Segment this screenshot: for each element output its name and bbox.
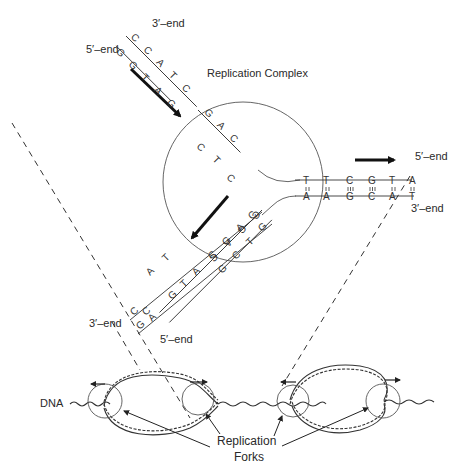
- svg-text:C: C: [368, 191, 375, 202]
- replication-fork-circle: [366, 384, 400, 418]
- replication-forks-label-2: Forks: [234, 450, 264, 464]
- projection-line-right: [282, 176, 410, 386]
- svg-text:T: T: [389, 175, 395, 186]
- dna-replication-diagram: Replication Complex 3′–end 5′–end 5′–end…: [0, 0, 464, 471]
- svg-text:T: T: [139, 71, 151, 83]
- upper-left-duplex: C C A T C G G T A G: [111, 28, 204, 121]
- bottom-3-end-label: 3′–end: [89, 317, 122, 329]
- svg-text:G: G: [346, 191, 354, 202]
- top-3-end-label: 3′–end: [152, 17, 185, 29]
- svg-text:T: T: [303, 175, 309, 186]
- svg-text:G: G: [165, 97, 178, 110]
- svg-text:A: A: [190, 265, 203, 278]
- replication-forks-label-1: Replication: [217, 434, 276, 448]
- strand-link-top: [258, 170, 300, 182]
- svg-text:A: A: [154, 57, 167, 70]
- dna-label: DNA: [40, 397, 64, 409]
- projection-line-center: [112, 322, 140, 370]
- arrow-lower-left: [192, 196, 228, 238]
- bottom-5-end-label: 5′–end: [160, 333, 193, 345]
- lower-strand-backbone-1: [130, 212, 262, 320]
- free-nucleotide: T: [160, 251, 172, 263]
- svg-text:C: C: [128, 305, 141, 318]
- svg-text:G: G: [202, 106, 215, 119]
- svg-text:A: A: [146, 311, 159, 324]
- svg-text:T: T: [167, 69, 179, 81]
- replication-fork-circle: [182, 383, 214, 415]
- svg-text:T: T: [323, 175, 329, 186]
- lower-strand-backbone-2: [138, 224, 272, 334]
- svg-text:C: C: [142, 44, 155, 57]
- fork-pointer: [124, 411, 210, 447]
- free-nucleotide: C: [195, 141, 208, 154]
- svg-text:T: T: [409, 191, 415, 202]
- svg-text:A: A: [409, 175, 416, 186]
- svg-text:G: G: [368, 175, 376, 186]
- svg-text:G: G: [134, 318, 147, 331]
- svg-text:A: A: [152, 84, 165, 97]
- replication-complex-circle: [163, 102, 323, 262]
- free-nucleotide: A: [144, 265, 157, 278]
- right-duplex: T T C G T A A A G C A T: [295, 175, 416, 202]
- svg-text:C: C: [129, 31, 142, 44]
- svg-text:C: C: [180, 82, 193, 95]
- right-5-end-label: 5′–end: [415, 150, 448, 162]
- svg-text:C: C: [230, 249, 243, 262]
- replication-complex-label: Replication Complex: [207, 67, 308, 79]
- svg-text:A: A: [323, 191, 330, 202]
- strand-link-bottom: [262, 196, 296, 215]
- svg-text:G: G: [127, 59, 140, 72]
- free-nucleotide: T: [211, 154, 223, 166]
- dna-strand: [70, 365, 434, 435]
- svg-text:A: A: [389, 191, 396, 202]
- projection-line-left: [12, 123, 190, 418]
- svg-text:G: G: [166, 288, 179, 301]
- svg-text:C: C: [228, 132, 241, 145]
- free-nucleotide: C: [225, 172, 238, 185]
- svg-text:A: A: [303, 191, 310, 202]
- replication-fork-circle: [277, 385, 309, 417]
- right-3-end-label: 3′–end: [411, 202, 444, 214]
- svg-text:C: C: [346, 175, 353, 186]
- svg-text:A: A: [215, 119, 228, 132]
- fork-pointer: [274, 416, 282, 436]
- fork-pointer: [206, 414, 220, 434]
